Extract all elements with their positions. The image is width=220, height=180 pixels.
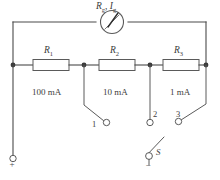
resistor-2-subscript: 2	[116, 50, 119, 57]
terminal-1-circle[interactable]	[103, 119, 109, 125]
current-range-label-2: 10 mA	[103, 88, 128, 97]
resistor-1-body	[33, 60, 69, 71]
terminal-3-circle[interactable]	[175, 118, 181, 124]
switch-label: S	[156, 148, 161, 157]
current-range-label-1: 100 mA	[32, 88, 61, 97]
terminal-1-label: 1	[92, 120, 96, 129]
current-range-label-3: 1 mA	[170, 88, 190, 97]
resistor-2-body	[99, 60, 135, 71]
terminal-2-label: 2	[153, 110, 157, 119]
wire-tap-to-terminal-1	[84, 65, 104, 121]
switch-pivot-circle[interactable]	[146, 153, 153, 160]
resistor-1-subscript: 1	[50, 50, 53, 57]
galvanometer-current-subscript: g	[113, 6, 116, 13]
resistor-2-label: R2	[110, 46, 119, 57]
circuit-diagram: Rg, Ig R1 R2 R3 100 mA 10 mA 1 mA 1 2 3 …	[0, 0, 220, 180]
resistor-3-subscript: 3	[180, 50, 183, 57]
positive-terminal-label: +	[10, 160, 15, 169]
resistor-1-label: R1	[44, 46, 53, 57]
terminal-3-label: 3	[176, 110, 180, 119]
resistor-3-body	[163, 60, 199, 71]
negative-terminal-label: −	[146, 161, 151, 170]
galvanometer-label: Rg, Ig	[96, 2, 116, 13]
terminal-2-circle[interactable]	[147, 119, 153, 125]
resistor-3-label: R3	[174, 46, 183, 57]
